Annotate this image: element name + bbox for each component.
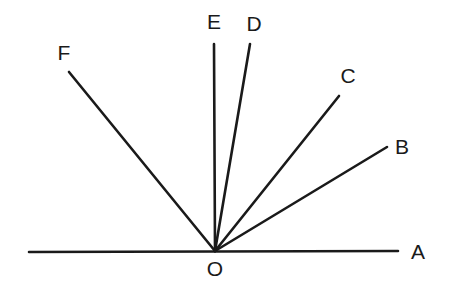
point-label-o: O xyxy=(207,257,223,280)
ray-od xyxy=(215,44,250,251)
ray-oe xyxy=(214,44,215,251)
point-label-c: C xyxy=(340,64,355,87)
point-label-a: A xyxy=(411,240,425,263)
ray-oc xyxy=(215,96,339,251)
ray-ob xyxy=(215,147,387,251)
geometry-diagram: ABCDEFO xyxy=(0,0,450,288)
ray-of xyxy=(69,72,215,251)
point-label-b: B xyxy=(395,135,409,158)
point-label-d: D xyxy=(246,12,261,35)
point-label-e: E xyxy=(207,10,221,33)
point-label-f: F xyxy=(58,41,71,64)
labels-group: ABCDEFO xyxy=(58,10,425,280)
diagram-svg: ABCDEFO xyxy=(0,0,450,288)
rays-group xyxy=(69,44,387,251)
